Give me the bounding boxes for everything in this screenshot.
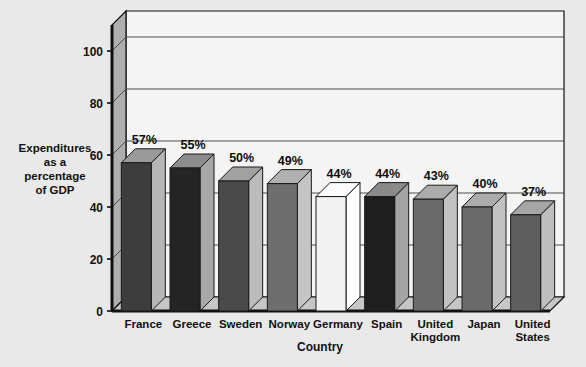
category-label: France bbox=[124, 318, 162, 330]
bar-front-face bbox=[365, 197, 395, 311]
category-label: States bbox=[515, 331, 550, 343]
bar-spain bbox=[365, 183, 409, 311]
bar-france bbox=[121, 149, 165, 311]
bar-side-face bbox=[541, 201, 555, 311]
bar-side-face bbox=[297, 170, 311, 311]
category-label: Kingdom bbox=[410, 331, 460, 343]
bar-side-face bbox=[346, 183, 360, 311]
bar-side-face bbox=[443, 185, 457, 311]
bar-side-face bbox=[395, 183, 409, 311]
x-axis-title: Country bbox=[297, 340, 343, 354]
y-tick-label: 20 bbox=[90, 253, 104, 267]
y-tick-label: 100 bbox=[83, 45, 103, 59]
bar-japan bbox=[462, 193, 506, 311]
gdp-expenditures-bar-chart: 020406080100 57%55%50%49%44%44%43%40%37%… bbox=[0, 0, 586, 367]
bar-value-label: 37% bbox=[521, 185, 546, 199]
bar-side-face bbox=[492, 193, 506, 311]
bar-value-label: 50% bbox=[229, 151, 254, 165]
y-axis-title-line: percentage bbox=[24, 170, 85, 182]
bar-sweden bbox=[219, 167, 263, 311]
chart-container: 020406080100 57%55%50%49%44%44%43%40%37%… bbox=[0, 0, 586, 367]
bar-value-label: 57% bbox=[132, 133, 157, 147]
bar-value-label: 55% bbox=[180, 138, 205, 152]
bar-front-face bbox=[170, 168, 200, 311]
y-axis-title-line: Expenditures bbox=[19, 142, 92, 154]
bar-front-face bbox=[121, 163, 151, 311]
bar-value-label: 49% bbox=[278, 154, 303, 168]
bar-united-kingdom bbox=[413, 185, 457, 311]
bar-norway bbox=[267, 170, 311, 311]
y-axis-title-line: of GDP bbox=[36, 184, 75, 196]
bar-side-face bbox=[249, 167, 263, 311]
y-tick-label: 60 bbox=[90, 149, 104, 163]
bar-value-label: 40% bbox=[472, 177, 497, 191]
bar-side-face bbox=[151, 149, 165, 311]
y-tick-label: 0 bbox=[96, 305, 103, 319]
category-label: United bbox=[417, 318, 453, 330]
bar-greece bbox=[170, 154, 214, 311]
bar-front-face bbox=[316, 197, 346, 311]
bar-value-label: 44% bbox=[375, 167, 400, 181]
bar-front-face bbox=[219, 181, 249, 311]
y-tick-label: 80 bbox=[90, 97, 104, 111]
category-label: Greece bbox=[172, 318, 211, 330]
bar-value-label: 44% bbox=[326, 167, 351, 181]
category-label: Japan bbox=[467, 318, 500, 330]
bar-front-face bbox=[267, 184, 297, 311]
bar-front-face bbox=[462, 207, 492, 311]
bar-united-states bbox=[511, 201, 555, 311]
bar-germany bbox=[316, 183, 360, 311]
category-label: Germany bbox=[313, 318, 363, 330]
y-axis-title-line: as a bbox=[44, 156, 67, 168]
bar-front-face bbox=[511, 215, 541, 311]
bar-side-face bbox=[200, 154, 214, 311]
y-tick-label: 40 bbox=[90, 201, 104, 215]
bar-value-label: 43% bbox=[424, 169, 449, 183]
category-label: United bbox=[515, 318, 551, 330]
category-label: Spain bbox=[371, 318, 402, 330]
category-label: Sweden bbox=[219, 318, 262, 330]
bar-front-face bbox=[413, 199, 443, 311]
category-label: Norway bbox=[269, 318, 311, 330]
